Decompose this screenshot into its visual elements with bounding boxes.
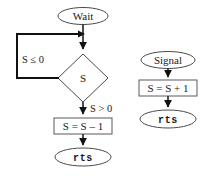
signal-start-label: Signal [154,54,182,66]
wait-end-node: rts [55,148,111,166]
signal-start-node: Signal [141,52,195,69]
branch-label-false: S ≤ 0 [22,54,44,65]
signal-end-node: rts [140,110,196,128]
flowchart-figure: Wait S S ≤ 0 S > 0 S = S – 1 [0,0,208,176]
decision-node: S [58,54,108,102]
signal-process-label: S = S + 1 [147,82,188,94]
wait-start-label: Wait [73,10,94,22]
signal-process-node: S = S + 1 [139,80,197,96]
flowchart-canvas: Wait S S ≤ 0 S > 0 S = S – 1 [0,0,208,176]
wait-process-node: S = S – 1 [54,118,112,134]
wait-process-label: S = S – 1 [63,120,103,132]
wait-end-label: rts [73,153,93,164]
decision-label: S [80,72,86,84]
signal-end-label: rts [158,115,178,126]
branch-label-true: S > 0 [90,103,112,114]
wait-start-node: Wait [58,8,108,25]
